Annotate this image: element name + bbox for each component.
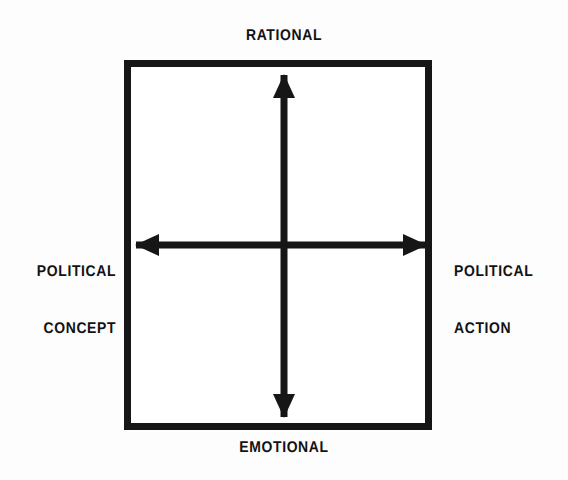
axis-label-political-concept-line1: POLITICAL: [37, 262, 116, 281]
axis-label-political-concept-line2: CONCEPT: [37, 319, 116, 338]
axis-label-political-concept: POLITICAL CONCEPT: [37, 224, 116, 376]
diagram-canvas: RATIONAL EMOTIONAL POLITICAL CONCEPT POL…: [0, 0, 568, 480]
axis-label-emotional: EMOTIONAL: [28, 438, 539, 457]
matrix-frame: [124, 60, 432, 430]
axis-label-political-action-line2: ACTION: [454, 319, 533, 338]
axis-label-rational: RATIONAL: [28, 26, 539, 45]
axis-label-political-action: POLITICAL ACTION: [454, 224, 533, 376]
axis-label-political-action-line1: POLITICAL: [454, 262, 533, 281]
